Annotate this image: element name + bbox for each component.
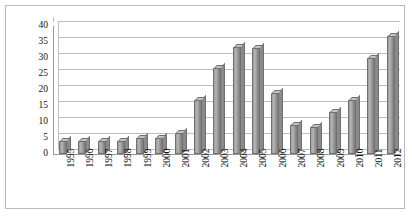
x-axis-labels: 1995199619971998199920002001200220032004… [53, 156, 400, 216]
bar-slot [211, 26, 230, 154]
bar-side-face [202, 95, 206, 153]
y-axis-tick-label: 30 [24, 53, 48, 62]
x-axis-tick: 2004 [231, 156, 250, 212]
x-axis-tick: 2011 [365, 156, 384, 212]
x-axis-tick-label: 2011 [374, 149, 384, 168]
bar [233, 47, 241, 154]
bar [348, 100, 356, 154]
y-axis-tick-label: 35 [24, 37, 48, 46]
bar-slot [308, 26, 327, 154]
x-axis-tick: 1997 [96, 156, 115, 212]
bar-slot [385, 26, 404, 154]
x-axis-tick: 2005 [250, 156, 269, 212]
gridline [58, 21, 400, 22]
x-axis-tick: 2012 [385, 156, 404, 212]
bar-slot [134, 26, 153, 154]
bar-slot [327, 26, 346, 154]
x-axis-tick: 2006 [269, 156, 288, 212]
bar-slot [96, 26, 115, 154]
x-axis-tick: 2009 [327, 156, 346, 212]
x-axis-tick: 1999 [134, 156, 153, 212]
x-axis-tick-label: 2003 [220, 149, 230, 168]
x-axis-tick-label: 2005 [258, 149, 268, 168]
bar-side-face [221, 63, 225, 153]
x-axis-tick: 2003 [211, 156, 230, 212]
x-axis-tick-label: 1997 [104, 149, 114, 168]
y-axis-tick-label: 25 [24, 69, 48, 78]
bar-side-face [279, 88, 283, 153]
bar-slot [153, 26, 172, 154]
x-axis-tick: 2001 [173, 156, 192, 212]
x-axis-tick: 2010 [346, 156, 365, 212]
x-axis-tick-label: 2001 [181, 149, 191, 168]
y-axis-tick-label: 40 [24, 21, 48, 30]
x-axis-tick: 2000 [153, 156, 172, 212]
x-axis-tick-label: 1996 [85, 149, 95, 168]
bar [367, 58, 375, 154]
y-axis-labels: 0510152025303540 [24, 6, 50, 216]
bar [387, 36, 395, 154]
x-axis-tick-label: 2007 [297, 149, 307, 168]
x-axis-tick-label: 2002 [201, 149, 211, 168]
bar-slot [365, 26, 384, 154]
bar-slot [288, 26, 307, 154]
bar-slot [76, 26, 95, 154]
x-axis-tick: 2008 [308, 156, 327, 212]
bar-slot [269, 26, 288, 154]
bar-slot [250, 26, 269, 154]
y-axis-tick-label: 15 [24, 101, 48, 110]
x-axis-tick-label: 2006 [278, 149, 288, 168]
bar [252, 48, 260, 154]
x-axis-tick: 1996 [76, 156, 95, 212]
x-axis-tick: 1998 [115, 156, 134, 212]
x-axis-tick: 1995 [57, 156, 76, 212]
bar-slot [115, 26, 134, 154]
bar-side-face [375, 53, 379, 153]
x-axis-tick-label: 2012 [393, 149, 403, 168]
x-axis-tick: 2007 [288, 156, 307, 212]
bar-series [53, 26, 400, 154]
bar-side-face [395, 31, 399, 153]
bar [271, 93, 279, 154]
bar-side-face [356, 95, 360, 153]
x-axis-tick-label: 2008 [316, 149, 326, 168]
bar-side-face [337, 107, 341, 153]
x-axis-tick-label: 1998 [123, 149, 133, 168]
chart-figure: 0510152025303540 19951996199719981999200… [0, 0, 412, 216]
bar-slot [346, 26, 365, 154]
bar-slot [57, 26, 76, 154]
x-axis-tick-label: 2010 [355, 149, 365, 168]
x-axis-tick: 2002 [192, 156, 211, 212]
bar-side-face [260, 43, 264, 153]
y-axis-tick-label: 10 [24, 117, 48, 126]
bar-side-face [241, 42, 245, 153]
x-axis-tick-label: 2000 [162, 149, 172, 168]
chart-frame: 0510152025303540 19951996199719981999200… [5, 5, 405, 209]
bar-slot [231, 26, 250, 154]
bar [213, 68, 221, 154]
bar-slot [173, 26, 192, 154]
x-axis-tick-label: 2009 [336, 149, 346, 168]
y-axis-tick-label: 20 [24, 85, 48, 94]
y-axis-tick-label: 0 [24, 149, 48, 158]
bar-slot [192, 26, 211, 154]
x-axis-tick-label: 1995 [66, 149, 76, 168]
bar [194, 100, 202, 154]
y-axis-tick-label: 5 [24, 133, 48, 142]
x-axis-tick-label: 1999 [143, 149, 153, 168]
x-axis-tick-label: 2004 [239, 149, 249, 168]
